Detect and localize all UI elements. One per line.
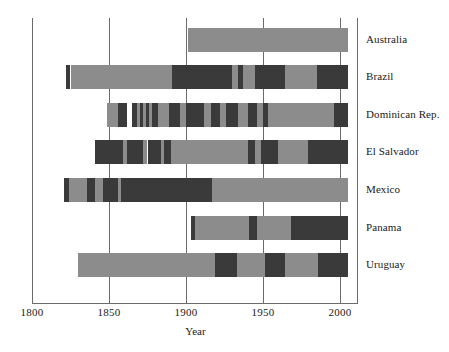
row-label-australia: Australia xyxy=(366,33,407,45)
timeline-segment xyxy=(212,178,348,202)
row-label-mexico: Mexico xyxy=(366,183,400,195)
x-axis-label: Year xyxy=(185,325,205,337)
timeline-segment xyxy=(238,103,247,127)
timeline-segment xyxy=(158,103,169,127)
timeline-segment xyxy=(95,178,103,202)
timeline-row: Dominican Rep. xyxy=(0,103,449,127)
timeline-segment xyxy=(226,103,238,127)
timeline-segment xyxy=(118,103,127,127)
timeline-row: Panama xyxy=(0,216,449,240)
timeline-segment xyxy=(249,216,257,240)
row-label-dominican-rep: Dominican Rep. xyxy=(366,108,440,120)
timeline-segment xyxy=(107,103,118,127)
timeline-segment xyxy=(265,253,285,277)
timeline-segment xyxy=(261,140,278,164)
timeline-segment xyxy=(188,28,348,52)
row-label-uruguay: Uruguay xyxy=(366,258,405,270)
timeline-segment xyxy=(317,65,348,89)
x-tick-label-2000: 2000 xyxy=(329,306,352,318)
timeline-segment xyxy=(285,253,319,277)
timeline-segment xyxy=(248,140,256,164)
row-label-panama: Panama xyxy=(366,221,401,233)
x-tick-label-1850: 1850 xyxy=(98,306,121,318)
timeline-segment xyxy=(121,178,212,202)
row-label-brazil: Brazil xyxy=(366,70,393,82)
x-tick-label-1900: 1900 xyxy=(175,306,198,318)
x-tick-label-1950: 1950 xyxy=(252,306,275,318)
timeline-segment xyxy=(211,103,220,127)
timeline-segment xyxy=(71,65,173,89)
timeline-segment xyxy=(268,103,334,127)
timeline-segment xyxy=(171,140,248,164)
timeline-segment xyxy=(195,216,249,240)
timeline-segment xyxy=(69,178,87,202)
timeline-segment xyxy=(169,103,180,127)
timeline-segment xyxy=(308,140,348,164)
chart-root: 18001850190019502000 Year AustraliaBrazi… xyxy=(0,0,449,352)
timeline-row: Mexico xyxy=(0,178,449,202)
timeline-segment xyxy=(248,103,257,127)
timeline-segment xyxy=(237,253,265,277)
timeline-segment xyxy=(243,65,255,89)
timeline-segment xyxy=(148,140,162,164)
timeline-segment xyxy=(257,216,291,240)
timeline-segment xyxy=(103,178,118,202)
timeline-segment xyxy=(172,65,232,89)
timeline-segment xyxy=(95,140,123,164)
timeline-segment xyxy=(334,103,348,127)
timeline-segment xyxy=(278,140,307,164)
row-label-el-salvador: El Salvador xyxy=(366,145,419,157)
timeline-segment xyxy=(285,65,317,89)
timeline-row: Australia xyxy=(0,28,449,52)
x-axis-line xyxy=(32,303,358,304)
timeline-row: El Salvador xyxy=(0,140,449,164)
timeline-row: Uruguay xyxy=(0,253,449,277)
timeline-segment xyxy=(127,140,142,164)
timeline-segment xyxy=(291,216,348,240)
x-tick-label-1800: 1800 xyxy=(21,306,44,318)
timeline-segment xyxy=(318,253,347,277)
timeline-segment xyxy=(78,253,215,277)
timeline-segment xyxy=(186,103,204,127)
timeline-segment xyxy=(255,65,284,89)
timeline-row: Brazil xyxy=(0,65,449,89)
timeline-segment xyxy=(87,178,95,202)
x-axis-label-wrap: Year xyxy=(0,325,449,337)
timeline-segment xyxy=(215,253,237,277)
